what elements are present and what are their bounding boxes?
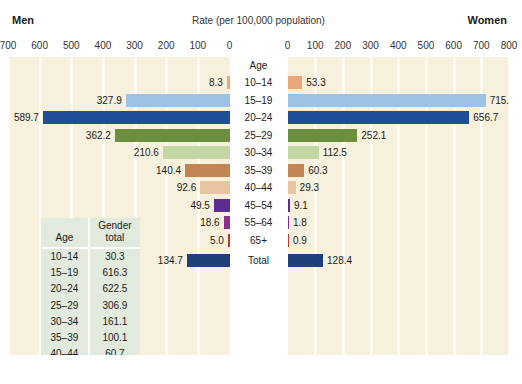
bar-women-25–29 xyxy=(288,129,358,142)
axis-tick-left-200: 200 xyxy=(153,40,179,51)
axis-tick-right-700: 700 xyxy=(468,40,494,51)
value-men-45–54: 49.5 xyxy=(190,199,209,212)
axis-tick-left-300: 300 xyxy=(122,40,148,51)
table-row: 35–39100.1 xyxy=(41,330,140,346)
bar-women-Total xyxy=(288,254,324,267)
axis-tick-right-100: 100 xyxy=(302,40,328,51)
bar-men-30–34 xyxy=(163,146,230,159)
axis-tick-right-0: 0 xyxy=(275,40,301,51)
axis-title: Rate (per 100,000 population) xyxy=(0,15,517,26)
cell-total: 60.7 xyxy=(89,346,140,355)
bar-women-40–44 xyxy=(288,181,296,194)
axis-tick-left-0: 0 xyxy=(217,40,243,51)
value-men-65+: 5.0 xyxy=(210,234,224,247)
axis-tick-left-500: 500 xyxy=(58,40,84,51)
bar-women-30–34 xyxy=(288,146,319,159)
col-age-header: Age xyxy=(41,218,89,248)
value-women-35–39: 60.3 xyxy=(308,164,327,177)
value-women-15–19: 715.6 xyxy=(490,94,509,107)
bar-women-65+ xyxy=(288,234,290,247)
table-row: 20–24622.5 xyxy=(41,281,140,297)
value-men-55–64: 18.6 xyxy=(200,216,219,229)
table-row: 30–34161.1 xyxy=(41,314,140,330)
axis-tick-left-100: 100 xyxy=(185,40,211,51)
age-label-10–14: 10–14 xyxy=(230,74,288,92)
axis-tick-right-600: 600 xyxy=(441,40,467,51)
cell-age: 20–24 xyxy=(41,281,89,297)
age-label-30–34: 30–34 xyxy=(230,144,288,162)
bar-men-Total xyxy=(187,254,230,267)
age-column-header: Age xyxy=(230,57,288,74)
cell-total: 30.3 xyxy=(89,248,140,265)
age-label-15–19: 15–19 xyxy=(230,92,288,110)
value-men-40–44: 92.6 xyxy=(177,181,196,194)
value-women-30–34: 112.5 xyxy=(323,146,347,159)
value-men-35–39: 140.4 xyxy=(156,164,181,177)
women-label: Women xyxy=(467,14,507,26)
cell-total: 622.5 xyxy=(89,281,140,297)
age-label-55–64: 55–64 xyxy=(230,214,288,232)
pyramid-plot: 8.353.3327.9715.6589.7656.7362.2252.1210… xyxy=(8,57,509,355)
axis-ticks: 7006005004003002001000010020030040050060… xyxy=(0,40,517,56)
value-men-25–29: 362.2 xyxy=(86,129,111,142)
gender-total-table: Age Gender total 10–1430.315–19616.320–2… xyxy=(41,218,140,355)
age-label-Total: Total xyxy=(230,252,288,270)
bar-women-20–24 xyxy=(288,111,470,124)
value-women-Total: 128.4 xyxy=(327,254,352,267)
axis-tick-right-800: 800 xyxy=(496,40,522,51)
age-column: Age 10–1415–1920–2425–2930–3435–3940–444… xyxy=(230,57,288,355)
value-men-15–19: 327.9 xyxy=(97,94,122,107)
axis-tick-left-700: 700 xyxy=(0,40,21,51)
value-men-10–14: 8.3 xyxy=(209,76,223,89)
col-total-header: Gender total xyxy=(89,218,140,248)
age-label-40–44: 40–44 xyxy=(230,179,288,197)
value-men-20–24: 589.7 xyxy=(14,111,39,124)
bar-women-45–54 xyxy=(288,199,291,212)
cell-age: 30–34 xyxy=(41,314,89,330)
value-women-10–14: 53.3 xyxy=(306,76,325,89)
age-label-65+: 65+ xyxy=(230,232,288,250)
cell-total: 306.9 xyxy=(89,298,140,314)
bar-women-35–39 xyxy=(288,164,305,177)
table-row: 25–29306.9 xyxy=(41,298,140,314)
bar-men-15–19 xyxy=(126,94,230,107)
cell-age: 10–14 xyxy=(41,248,89,265)
value-women-40–44: 29.3 xyxy=(300,181,319,194)
age-label-35–39: 35–39 xyxy=(230,162,288,180)
cell-age: 25–29 xyxy=(41,298,89,314)
table-header-row: Age Gender total xyxy=(41,218,140,248)
value-men-Total: 134.7 xyxy=(158,254,183,267)
age-label-20–24: 20–24 xyxy=(230,109,288,127)
bar-women-55–64 xyxy=(288,216,290,229)
value-men-30–34: 210.6 xyxy=(134,146,159,159)
bar-men-45–54 xyxy=(214,199,230,212)
table-row: 40–4460.7 xyxy=(41,346,140,355)
col-total-header-line1: Gender xyxy=(90,220,140,232)
table-row: 10–1430.3 xyxy=(41,248,140,265)
bar-men-40–44 xyxy=(200,181,229,194)
bar-women-15–19 xyxy=(288,94,486,107)
chart-header: Men Rate (per 100,000 population) Women xyxy=(0,14,517,30)
cell-total: 616.3 xyxy=(89,265,140,281)
cell-total: 100.1 xyxy=(89,330,140,346)
bar-men-35–39 xyxy=(185,164,229,177)
table-row: 15–19616.3 xyxy=(41,265,140,281)
cell-age: 40–44 xyxy=(41,346,89,355)
value-women-25–29: 252.1 xyxy=(361,129,386,142)
value-women-20–24: 656.7 xyxy=(473,111,498,124)
bar-women-10–14 xyxy=(288,76,303,89)
age-label-45–54: 45–54 xyxy=(230,197,288,215)
value-women-55–64: 1.8 xyxy=(293,216,307,229)
axis-tick-right-400: 400 xyxy=(385,40,411,51)
axis-tick-left-600: 600 xyxy=(27,40,53,51)
axis-tick-right-300: 300 xyxy=(358,40,384,51)
value-women-45–54: 9.1 xyxy=(294,199,308,212)
bar-men-20–24 xyxy=(43,111,230,124)
age-label-25–29: 25–29 xyxy=(230,127,288,145)
col-total-header-line2: total xyxy=(90,232,140,244)
cell-age: 15–19 xyxy=(41,265,89,281)
cell-age: 35–39 xyxy=(41,330,89,346)
axis-tick-right-200: 200 xyxy=(330,40,356,51)
value-women-65+: 0.9 xyxy=(293,234,307,247)
axis-tick-left-400: 400 xyxy=(90,40,116,51)
